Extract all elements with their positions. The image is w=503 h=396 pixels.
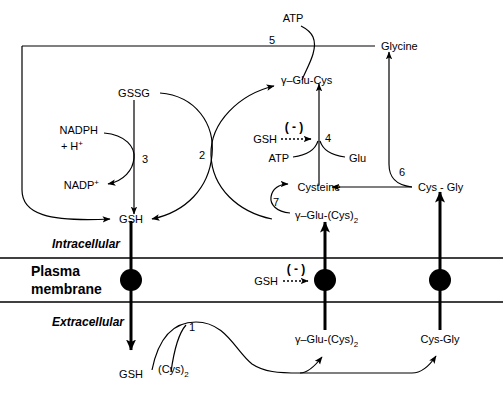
enzyme5-atp-curve	[301, 26, 315, 80]
enzyme-number-3: 3	[142, 153, 148, 165]
enzyme-number-7: 7	[273, 196, 279, 208]
label-gamma-glu-cys: γ–Glu-Cys	[281, 74, 333, 86]
label-cys-gly-intracellular: Cys - Gly	[418, 181, 464, 193]
label-plasma-membrane-line2: membrane	[31, 281, 102, 297]
enzyme-number-6: 6	[399, 166, 405, 178]
label-gsh-inhibitor-enzyme4: GSH	[253, 133, 277, 145]
label-glycine: Glycine	[381, 40, 418, 52]
label-nadph: NADPH	[59, 124, 98, 136]
reaction4-atp-curve	[293, 141, 318, 157]
transporter-gglucys2-uptake	[314, 269, 336, 291]
label-glu: Glu	[349, 152, 366, 164]
reaction1-to-gglucys2	[300, 357, 322, 373]
label-plasma-membrane-line1: Plasma	[31, 263, 80, 279]
label-gssg: GSSG	[118, 87, 150, 99]
label-gglucys2-extracellular: γ–Glu-(Cys)2	[295, 333, 359, 349]
label-cys2-extracellular: (Cys)2	[158, 363, 189, 379]
enzyme-number-5: 5	[269, 34, 275, 46]
label-gglucys2-intracellular: γ–Glu-(Cys)2	[295, 209, 359, 225]
pathway-canvas: ATP 5 Glycine GSSG γ–Glu-Cys NADPH + H+ …	[0, 0, 503, 396]
label-gsh-extracellular: GSH	[119, 368, 143, 380]
pathway-diagram: ATP 5 Glycine GSSG γ–Glu-Cys NADPH + H+ …	[0, 0, 503, 396]
enzyme-number-2: 2	[199, 149, 205, 161]
label-nadph-h: + H+	[61, 139, 83, 152]
label-atp-enzyme4: ATP	[268, 152, 289, 164]
label-nadp: NADP+	[64, 178, 100, 191]
label-gsh-inhibitor-membrane: GSH	[254, 275, 278, 287]
inhibition-symbol-membrane: ( - )	[287, 262, 306, 276]
reaction3-nadph-curve	[104, 133, 134, 184]
inhibition-symbol-enzyme4: ( - )	[285, 120, 304, 134]
reaction4-glu-curve	[320, 141, 345, 157]
label-gsh-intracellular: GSH	[119, 213, 143, 225]
transporter-gsh-efflux	[120, 269, 142, 291]
enzyme-number-4: 4	[325, 132, 331, 144]
label-cys-gly-extracellular: Cys-Gly	[420, 333, 460, 345]
label-atp-top: ATP	[283, 12, 304, 24]
enzyme-number-1: 1	[189, 321, 195, 333]
label-cysteine: Cysteine	[298, 181, 341, 193]
label-extracellular: Extracellular	[52, 315, 125, 329]
transporter-cysgly-uptake	[429, 269, 451, 291]
label-intracellular: Intracellular	[52, 237, 121, 251]
cycle2-right-lobe	[211, 86, 274, 219]
